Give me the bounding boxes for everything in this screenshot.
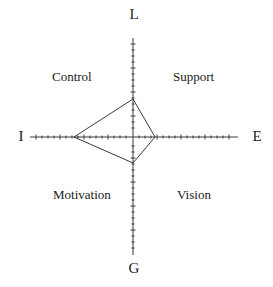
- axis-endpoint-label-left: I: [13, 129, 29, 144]
- quadrant-label-motivation: Motivation: [53, 188, 111, 201]
- quadrant-label-support: Support: [173, 70, 214, 83]
- quadrant-diagram-figure: L E G I Control Support Motivation Visio…: [0, 0, 273, 287]
- quadrant-label-vision: Vision: [177, 188, 211, 201]
- horizontal-axis-group: [30, 135, 238, 140]
- diagram-canvas: [0, 0, 273, 287]
- axis-endpoint-label-right: E: [249, 129, 265, 144]
- axis-endpoint-label-top: L: [126, 7, 142, 22]
- profile-kite-polygon: [74, 99, 155, 163]
- quadrant-label-control: Control: [52, 70, 92, 83]
- vertical-axis-group: [131, 38, 136, 255]
- axis-endpoint-label-bottom: G: [126, 261, 142, 276]
